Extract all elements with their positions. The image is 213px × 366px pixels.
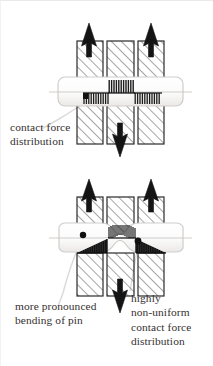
lug-outer-left-lower	[77, 253, 103, 296]
contact-dot-right	[135, 238, 142, 245]
caption-nonuniform-line3: contact force	[131, 320, 191, 334]
caption-contact-force-line2: distribution	[10, 134, 70, 148]
force-comb-center-uniform	[108, 80, 135, 93]
caption-bending-line1: more pronounced	[15, 299, 97, 313]
lug-outer-right-lower	[138, 104, 164, 144]
caption-bending-of-pin: more pronounced bending of pin	[15, 299, 97, 328]
caption-nonuniform-line4: distribution	[131, 334, 191, 348]
lug-outer-right-lower	[138, 253, 164, 296]
contact-dot-left	[83, 93, 89, 99]
caption-nonuniform-contact-force: highly non-uniform contact force distrib…	[131, 291, 191, 349]
caption-nonuniform-line1: highly	[131, 291, 191, 305]
caption-bending-line2: bending of pin	[15, 313, 97, 327]
contact-dot-left	[80, 232, 86, 238]
caption-contact-force: contact force distribution	[10, 120, 70, 149]
caption-contact-force-line1: contact force	[10, 120, 70, 134]
figure-root: contact force distribution more pronounc…	[0, 0, 213, 366]
lug-outer-left-lower	[77, 104, 103, 144]
caption-nonuniform-line2: non-uniform	[131, 305, 191, 319]
